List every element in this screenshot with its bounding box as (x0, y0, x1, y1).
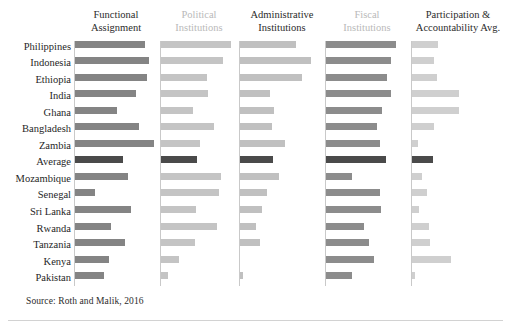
bar (412, 256, 451, 263)
bar (161, 156, 198, 163)
bar (75, 156, 123, 163)
bar (75, 74, 147, 81)
bar (161, 189, 220, 196)
panel-political-institutions (160, 41, 239, 286)
bar (161, 256, 180, 263)
bar (75, 189, 95, 196)
category-label: Bangladesh (0, 123, 74, 134)
column-header-functional-assignment: Functional Assignment (72, 8, 160, 34)
bar (326, 123, 377, 130)
bar (412, 90, 459, 97)
bar (75, 90, 136, 97)
category-label: India (0, 90, 74, 101)
panel-administrative-institutions (239, 41, 325, 286)
bar (412, 189, 427, 196)
bar (326, 90, 391, 97)
bar (75, 41, 145, 48)
bar (412, 156, 433, 163)
source-note: Source: Roth and Malik, 2016 (26, 296, 144, 306)
bar (326, 272, 352, 279)
bar (326, 156, 386, 163)
bar (326, 189, 380, 196)
bar (412, 239, 430, 246)
bar (412, 41, 438, 48)
bar (412, 223, 429, 230)
category-label: Average (0, 156, 74, 167)
bar (161, 140, 200, 147)
category-label: Mozambique (0, 173, 74, 184)
bar (240, 123, 272, 130)
bar (161, 173, 222, 180)
bar (412, 173, 422, 180)
bottom-divider (8, 320, 503, 321)
bar (240, 239, 260, 246)
bar (326, 41, 396, 48)
bar (75, 140, 154, 147)
bar (240, 223, 256, 230)
bar (326, 74, 387, 81)
category-label: Tanzania (0, 239, 74, 250)
bar (240, 206, 262, 213)
category-axis-labels: PhilippinesIndonesiaEthiopiaIndiaGhanaBa… (0, 0, 74, 328)
category-label: Ghana (0, 107, 74, 118)
bar (326, 206, 381, 213)
bar (161, 123, 215, 130)
bar (412, 140, 418, 147)
category-label: Sri Lanka (0, 206, 74, 217)
bar (161, 239, 195, 246)
panel-fiscal-institutions (325, 41, 411, 286)
panel-participation-accountability (411, 41, 508, 286)
bar (326, 239, 369, 246)
chart-figure: Functional Assignment Political Institut… (0, 0, 511, 328)
bar (240, 74, 303, 81)
column-header-political-institutions: Political Institutions (158, 8, 240, 34)
bar (412, 74, 437, 81)
bar (161, 90, 209, 97)
bar (161, 206, 196, 213)
bar (326, 173, 352, 180)
bar (240, 107, 275, 114)
bar (326, 223, 364, 230)
bar (161, 107, 194, 114)
bar (240, 156, 273, 163)
bar (75, 272, 104, 279)
bar (75, 223, 111, 230)
bar (75, 256, 109, 263)
bar (326, 256, 374, 263)
bar (240, 189, 267, 196)
bar (412, 272, 415, 279)
category-label: Senegal (0, 189, 74, 200)
column-header-administrative-institutions: Administrative Institutions (237, 8, 327, 34)
bar (240, 90, 271, 97)
bar (161, 41, 231, 48)
bar (240, 41, 296, 48)
bar (412, 123, 434, 130)
category-label: Zambia (0, 140, 74, 151)
bar (161, 74, 208, 81)
category-label: Pakistan (0, 272, 74, 283)
bar (161, 57, 223, 64)
bar (75, 206, 131, 213)
bar (240, 272, 243, 279)
bar (326, 57, 391, 64)
bar (326, 140, 380, 147)
column-header-participation-accountability: Participation & Accountability Avg. (408, 8, 508, 34)
bar (240, 173, 279, 180)
bar (240, 140, 285, 147)
bar (75, 239, 125, 246)
column-header-fiscal-institutions: Fiscal Institutions (323, 8, 411, 34)
bar (75, 173, 128, 180)
category-label: Rwanda (0, 223, 74, 234)
bar (240, 57, 311, 64)
bar (75, 107, 117, 114)
bar (412, 57, 434, 64)
bar (412, 107, 459, 114)
category-label: Ethiopia (0, 74, 74, 85)
category-label: Philippines (0, 41, 74, 52)
bar (75, 57, 149, 64)
bar (75, 123, 139, 130)
category-label: Indonesia (0, 57, 74, 68)
bar (161, 272, 169, 279)
panel-functional-assignment (74, 41, 159, 286)
bar (412, 206, 419, 213)
